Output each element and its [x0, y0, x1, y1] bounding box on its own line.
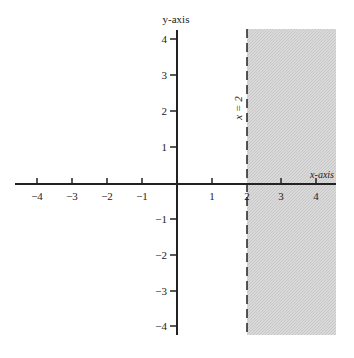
y-tick-label: −1 — [155, 213, 167, 225]
inequality-graph: −4 −3 −2 −1 1 2 3 4 4 3 2 1 −1 −2 −3 −4 … — [0, 0, 354, 358]
x-axis-label: x-axis — [309, 169, 334, 180]
y-tick-label: −3 — [155, 285, 167, 297]
y-tick-label: 3 — [162, 69, 168, 81]
x-tick-label: 4 — [313, 190, 319, 202]
y-tick-label: 4 — [162, 33, 168, 45]
x-tick-label: 2 — [244, 190, 250, 202]
y-tick-label: 1 — [162, 141, 168, 153]
chart-svg: −4 −3 −2 −1 1 2 3 4 4 3 2 1 −1 −2 −3 −4 … — [0, 0, 354, 358]
shaded-region — [247, 29, 336, 335]
x-tick-label: 3 — [278, 190, 284, 202]
y-tick-label: 2 — [162, 105, 168, 117]
y-axis-label: y-axis — [163, 13, 190, 25]
y-ticks — [170, 39, 177, 326]
y-tick-label: −2 — [155, 249, 167, 261]
boundary-label: x = 2 — [232, 96, 244, 121]
x-tick-label: −4 — [31, 190, 43, 202]
x-tick-label: −1 — [136, 190, 148, 202]
x-tick-label: 1 — [209, 190, 215, 202]
x-tick-label: −2 — [101, 190, 113, 202]
y-tick-label: −4 — [155, 320, 167, 332]
x-tick-label: −3 — [66, 190, 78, 202]
